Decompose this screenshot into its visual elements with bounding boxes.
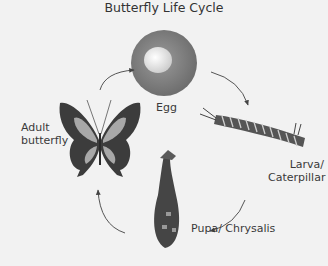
arrow-pupa-to-adult (98, 190, 125, 233)
adult-label: Adult butterfly (21, 121, 68, 147)
chrysalis-image (154, 150, 179, 248)
larva-label-line2: Caterpillar (268, 171, 324, 184)
adult-label-line2: butterfly (21, 134, 68, 147)
adult-label-line1: Adult (21, 121, 68, 134)
arrow-adult-to-egg (100, 70, 134, 90)
arrow-egg-to-larva (211, 72, 248, 105)
caterpillar-image (200, 108, 305, 147)
egg-image (131, 30, 197, 96)
egg-label: Egg (156, 101, 177, 114)
pupa-label: Pupa/ Chrysalis (191, 222, 275, 235)
larva-label-line1: Larva/ (268, 158, 324, 171)
larva-label: Larva/ Caterpillar (268, 158, 324, 184)
butterfly-image (60, 100, 141, 177)
